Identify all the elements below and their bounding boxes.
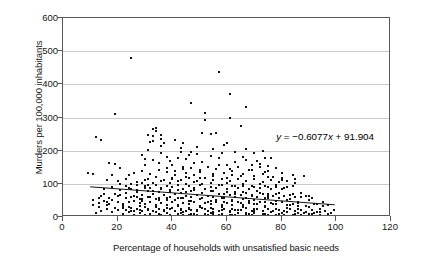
trend-line	[63, 18, 389, 215]
y-tick-label-100: 100	[18, 177, 58, 188]
y-tick-label-0: 0	[18, 211, 58, 222]
scatter-point	[286, 215, 288, 216]
x-tick-label-20: 20	[97, 221, 137, 232]
scatter-point	[313, 215, 315, 216]
x-tick-label-60: 60	[206, 221, 246, 232]
y-tick-label-200: 200	[18, 144, 58, 155]
y-tick-label-600: 600	[18, 12, 58, 23]
x-tick-label-80: 80	[261, 221, 301, 232]
scatter-point	[242, 215, 244, 216]
scatter-point	[199, 215, 201, 216]
scatter-point	[270, 215, 272, 216]
x-tick-label-120: 120	[370, 221, 410, 232]
y-tick-label-500: 500	[18, 45, 58, 56]
y-tick-label-400: 400	[18, 78, 58, 89]
scatter-point	[324, 215, 326, 216]
x-tick-label-100: 100	[315, 221, 355, 232]
regression-equation-label: y = −0.6077x + 91.904	[276, 131, 374, 142]
regression-line	[90, 187, 335, 205]
equation-slope-text: = −0.6077	[281, 131, 328, 142]
scatter-chart-figure: Murders per 100,000 inhabitants 01002003…	[0, 0, 426, 269]
x-tick-label-0: 0	[42, 221, 82, 232]
x-tick-label-40: 40	[151, 221, 191, 232]
x-axis-title: Percentage of households with unsatisfie…	[62, 242, 390, 253]
equation-intercept-text: + 91.904	[333, 131, 374, 142]
plot-area: y = −0.6077x + 91.904	[62, 17, 390, 216]
y-tick-label-300: 300	[18, 111, 58, 122]
